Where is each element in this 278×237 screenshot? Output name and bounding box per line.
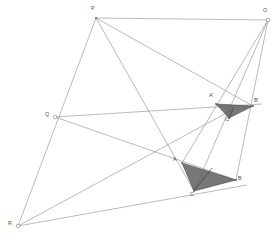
line-P-B1 <box>96 18 253 106</box>
point-label-B-prime: B' <box>254 98 259 103</box>
point-label-A: A <box>173 157 177 162</box>
construction-lines <box>18 18 268 226</box>
point-label-C-prime: C' <box>225 117 230 122</box>
point-label-A-prime: A' <box>209 93 214 98</box>
point-label-P: P <box>91 6 95 11</box>
line-O-B1-B <box>236 20 268 180</box>
point-label-O: O <box>263 8 267 13</box>
vertex-markers <box>16 17 270 228</box>
point-marker-P <box>95 17 97 19</box>
geometry-canvas <box>0 0 278 237</box>
line-P-R <box>18 18 96 226</box>
line-Q-B <box>55 117 236 180</box>
point-marker-Q <box>53 115 57 119</box>
point-marker-A-prime <box>215 103 217 105</box>
point-marker-B-prime <box>252 105 254 107</box>
line-R-A1 <box>18 110 232 226</box>
point-marker-A <box>181 162 183 164</box>
line-P-C <box>96 18 194 191</box>
point-marker-R <box>16 224 20 228</box>
point-label-C: C <box>190 192 194 197</box>
point-label-R: R <box>8 221 12 226</box>
point-label-Q: Q <box>45 112 49 117</box>
geometry-figure: P O Q R A B C A' B' C' <box>0 0 278 237</box>
line-R-B <box>18 185 247 226</box>
point-marker-O <box>266 18 270 22</box>
line-P-O <box>96 18 268 20</box>
point-label-B: B <box>238 176 242 181</box>
line-O-A1-A <box>182 20 268 163</box>
point-marker-B <box>235 179 237 181</box>
